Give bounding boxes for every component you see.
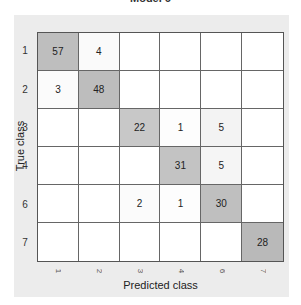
- matrix-cell: [242, 147, 283, 185]
- matrix-cell: [38, 223, 79, 261]
- x-tick-label: 6: [219, 266, 225, 276]
- matrix-cell: 3: [38, 71, 79, 109]
- matrix-cell: 28: [242, 223, 283, 261]
- x-tick-label: 1: [55, 266, 61, 276]
- matrix-cell: 1: [160, 185, 201, 223]
- matrix-cell: 48: [79, 71, 120, 109]
- matrix-cell: [242, 185, 283, 223]
- matrix-cell: 5: [201, 147, 242, 185]
- matrix-cell: 57: [38, 33, 79, 71]
- matrix-cell: [38, 109, 79, 147]
- matrix-cell: [160, 33, 201, 71]
- matrix-cell: [201, 33, 242, 71]
- matrix-cell: [160, 71, 201, 109]
- matrix-cell: 2: [120, 185, 161, 223]
- y-tick-label: 1: [20, 45, 30, 56]
- matrix-cell: 22: [120, 109, 161, 147]
- matrix-cell: [120, 71, 161, 109]
- matrix-cell: 30: [201, 185, 242, 223]
- matrix-cell: [120, 33, 161, 71]
- matrix-cell: [201, 71, 242, 109]
- matrix-cell: [38, 147, 79, 185]
- matrix-cell: [79, 147, 120, 185]
- y-tick-label: 7: [20, 237, 30, 248]
- matrix-cell: [242, 109, 283, 147]
- x-tick-label: 7: [260, 266, 266, 276]
- matrix-cell: [201, 223, 242, 261]
- matrix-cell: [38, 185, 79, 223]
- matrix-cell: [160, 223, 201, 261]
- matrix-cell: [242, 71, 283, 109]
- matrix-cell: [79, 223, 120, 261]
- matrix-cell: [120, 147, 161, 185]
- matrix-cell: [120, 223, 161, 261]
- matrix-cell: [79, 185, 120, 223]
- matrix-cell: 4: [79, 33, 120, 71]
- x-tick-label: 3: [137, 266, 143, 276]
- x-tick-label: 4: [178, 266, 184, 276]
- x-tick-label: 2: [96, 266, 102, 276]
- confusion-matrix-grid: 5743482215315213028: [37, 32, 284, 262]
- matrix-cell: [242, 33, 283, 71]
- matrix-cell: 31: [160, 147, 201, 185]
- chart-title: Model 6: [0, 0, 301, 2]
- y-tick-label: 6: [20, 199, 30, 210]
- y-tick-label: 2: [20, 84, 30, 95]
- matrix-cell: 1: [160, 109, 201, 147]
- matrix-cell: [79, 109, 120, 147]
- matrix-cell: 5: [201, 109, 242, 147]
- y-axis-title: True class: [14, 111, 26, 181]
- x-axis-title: Predicted class: [37, 279, 284, 291]
